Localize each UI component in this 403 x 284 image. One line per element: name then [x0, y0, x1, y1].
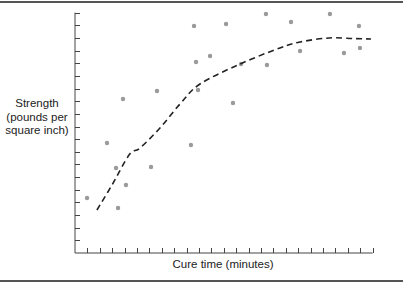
data-point: [289, 20, 293, 24]
data-point: [149, 165, 153, 169]
dashed-trend-curve: [97, 38, 371, 210]
data-point: [208, 54, 212, 58]
data-point: [192, 24, 196, 28]
data-point: [105, 141, 109, 145]
scatter-points: [85, 12, 362, 210]
data-point: [121, 97, 125, 101]
data-point: [124, 183, 128, 187]
data-point: [189, 143, 193, 147]
data-point: [196, 88, 200, 92]
data-point: [328, 12, 332, 16]
data-point: [231, 101, 235, 105]
data-point: [194, 60, 198, 64]
data-point: [342, 51, 346, 55]
axes: [75, 13, 374, 253]
data-point: [85, 196, 89, 200]
data-point: [114, 166, 118, 170]
plot-area: [0, 0, 403, 284]
data-point: [155, 89, 159, 93]
data-point: [224, 22, 228, 26]
data-point: [265, 63, 269, 67]
data-point: [298, 49, 302, 53]
data-point: [358, 46, 362, 50]
data-point: [264, 12, 268, 16]
data-point: [357, 24, 361, 28]
data-point: [116, 206, 120, 210]
chart-figure: Strength (pounds per square inch) Cure t…: [0, 0, 403, 284]
